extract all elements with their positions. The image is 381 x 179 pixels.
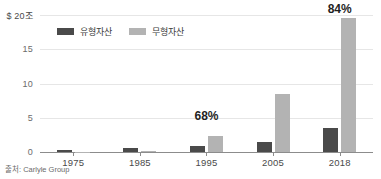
annotation-84-percent: 84% [328, 2, 352, 16]
x-label-1985: 1985 [107, 157, 174, 168]
legend-label-tangible: 유형자산 [80, 25, 112, 38]
legend-label-intangible: 무형자산 [152, 25, 184, 38]
tick-1995 [206, 152, 207, 156]
y-tick-5: 5 [28, 113, 33, 123]
x-label-1995: 1995 [173, 157, 240, 168]
legend-swatch-tangible [57, 28, 74, 35]
y-tick-15: 15 [23, 44, 33, 54]
bar-intangible-2005 [275, 94, 290, 152]
legend-item-intangible: 무형자산 [129, 25, 184, 38]
y-tick-0: 0 [28, 147, 33, 157]
tick-1975 [73, 152, 74, 156]
legend-item-tangible: 유형자산 [57, 25, 112, 38]
tick-1985 [140, 152, 141, 156]
bar-tangible-2018 [323, 128, 338, 152]
bar-tangible-1975 [57, 150, 72, 152]
tick-2005 [273, 152, 274, 156]
x-label-2018: 2018 [306, 157, 373, 168]
bar-intangible-1985 [141, 151, 156, 152]
y-tick-10: 10 [23, 79, 33, 89]
x-label-1975: 1975 [40, 157, 107, 168]
tick-2018 [340, 152, 341, 156]
x-label-2005: 2005 [240, 157, 307, 168]
bar-intangible-1995 [208, 136, 223, 152]
y-tick-20: $ 20조 [6, 9, 33, 22]
asset-composition-chart: $ 20조 15 10 5 0 68% [0, 0, 381, 179]
chart-legend: 유형자산 무형자산 [57, 25, 184, 38]
bar-tangible-1995 [190, 146, 205, 152]
bar-tangible-1985 [123, 148, 138, 152]
annotation-68-percent: 68% [194, 109, 218, 123]
bar-group-2018: 84% [306, 10, 373, 152]
bar-group-2005 [240, 10, 307, 152]
bar-tangible-2005 [257, 142, 272, 152]
bar-intangible-2018 [341, 18, 356, 152]
x-axis-labels: 1975 1985 1995 2005 2018 [40, 157, 373, 168]
legend-swatch-intangible [129, 28, 146, 35]
